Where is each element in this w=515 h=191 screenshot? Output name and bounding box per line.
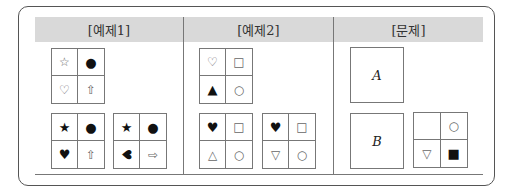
white-circle-icon: ○	[234, 148, 244, 162]
white-right-arrow-icon: ⇨	[148, 148, 158, 162]
example1-grid-bottom-right: ★●♥⇨	[113, 113, 167, 169]
white-triangle-up-icon: △	[208, 148, 217, 162]
grid-cell: ▲	[200, 76, 226, 103]
grid-cell: ☆	[52, 49, 78, 76]
black-circle-icon: ●	[147, 120, 158, 135]
black-star-icon: ★	[121, 120, 133, 135]
grid-cell: ⇧	[78, 141, 104, 168]
grid-cell: ♥	[200, 114, 226, 141]
example2-grid-bottom-right: ♥□▽○	[262, 113, 316, 169]
white-circle-icon: ○	[297, 148, 307, 162]
white-up-arrow-icon: ⇧	[86, 83, 96, 97]
example1-grid-bottom-left: ★●♥⇧	[51, 113, 105, 169]
grid-cell: ♡	[200, 49, 226, 76]
grid-cell: ○	[441, 113, 468, 140]
grid-cell: ▽	[414, 140, 441, 167]
black-heart-icon: ♥	[207, 120, 219, 135]
grid-cell: ★	[114, 114, 140, 141]
white-square-icon: □	[233, 55, 244, 69]
grid-cell: ♥	[52, 141, 78, 168]
black-circle-icon: ●	[85, 120, 96, 135]
white-circle-icon: ○	[449, 119, 459, 133]
section-divider	[333, 17, 334, 175]
example2-grid-bottom-left: ♥□△○	[199, 113, 253, 169]
grid-cell	[414, 113, 441, 140]
section-label: [문제]	[391, 20, 425, 39]
problem-box-a: A	[350, 47, 404, 103]
white-star-icon: ☆	[59, 55, 70, 69]
black-circle-icon: ●	[85, 55, 96, 70]
grid-cell: ♥	[114, 141, 140, 168]
grid-cell: ●	[140, 114, 166, 141]
white-heart-icon: ♡	[207, 55, 218, 69]
grid-cell: □	[226, 114, 252, 141]
problem-grid: ○▽■	[413, 112, 468, 168]
white-triangle-down-icon: ▽	[422, 147, 431, 161]
white-triangle-down-icon: ▽	[271, 148, 280, 162]
box-b-label: B	[372, 134, 382, 149]
grid-cell: ▽	[263, 141, 289, 168]
grid-cell: ○	[226, 141, 252, 168]
section-label: [예제2]	[237, 20, 279, 39]
header-example2: [예제2]	[184, 17, 333, 42]
grid-cell: ♡	[52, 76, 78, 103]
grid-cell: ⇨	[140, 141, 166, 168]
header-problem: [문제]	[334, 17, 483, 42]
bottom-rule	[35, 174, 483, 175]
white-up-arrow-icon: ⇧	[86, 148, 96, 162]
box-a-label: A	[372, 68, 381, 83]
grid-cell: ★	[52, 114, 78, 141]
white-square-icon: □	[233, 120, 244, 134]
white-heart-icon: ♡	[59, 83, 70, 97]
grid-cell: ○	[289, 141, 315, 168]
black-star-icon: ★	[59, 120, 71, 135]
grid-cell: ●	[78, 114, 104, 141]
black-heart-rotated-left-icon: ♥	[119, 149, 134, 161]
white-circle-icon: ○	[234, 83, 244, 97]
black-heart-icon: ♥	[59, 147, 71, 162]
black-triangle-up-icon: ▲	[208, 82, 218, 97]
black-square-icon: ■	[448, 146, 460, 161]
grid-cell: ●	[78, 49, 104, 76]
example2-grid-top: ♡□▲○	[199, 48, 253, 104]
grid-cell: ⇧	[78, 76, 104, 103]
section-label: [예제1]	[88, 20, 130, 39]
header-example1: [예제1]	[35, 17, 183, 42]
section-divider	[183, 17, 184, 175]
problem-box-b: B	[350, 113, 404, 169]
grid-cell: ○	[226, 76, 252, 103]
grid-cell: △	[200, 141, 226, 168]
grid-cell: ■	[441, 140, 468, 167]
grid-cell: □	[289, 114, 315, 141]
example1-grid-top: ☆●♡⇧	[51, 48, 105, 104]
black-heart-icon: ♥	[270, 120, 282, 135]
white-square-icon: □	[296, 120, 307, 134]
grid-cell: □	[226, 49, 252, 76]
grid-cell: ♥	[263, 114, 289, 141]
